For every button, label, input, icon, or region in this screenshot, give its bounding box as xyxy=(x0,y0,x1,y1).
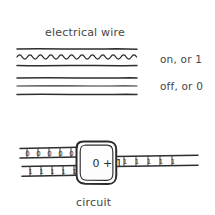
wire-off-state-label: off, or 0 xyxy=(160,80,203,92)
wire-off-graphic xyxy=(17,78,137,95)
wire-on-wave xyxy=(17,55,137,59)
wire-on-state-label: on, or 1 xyxy=(160,53,202,65)
figure-canvas: electrical wire xyxy=(0,0,215,215)
figure-caption: circuit xyxy=(76,196,111,209)
chip-label: 0 + 1 xyxy=(0,157,215,170)
input-top-rail-upper xyxy=(20,147,78,148)
wire-on-graphic xyxy=(17,49,137,66)
figure-title: electrical wire xyxy=(45,26,125,39)
